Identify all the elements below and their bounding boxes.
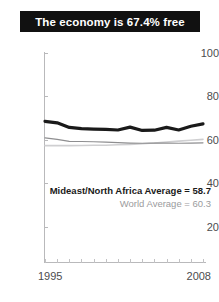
annotation-world-average: World Average = 60.3: [0, 198, 211, 209]
annotation-region-average: Mideast/North Africa Average = 58.7: [0, 185, 211, 196]
chart-figure: The economy is 67.4% free 100 80 60 40 2…: [0, 0, 219, 302]
chart-plot: [0, 0, 219, 302]
series-line-country: [45, 121, 203, 130]
